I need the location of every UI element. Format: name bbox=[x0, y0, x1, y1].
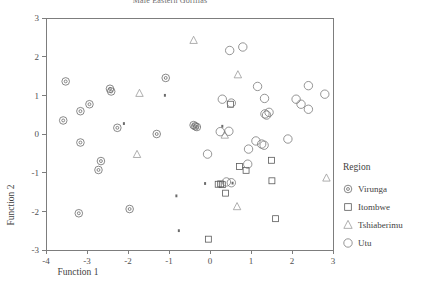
legend-entry-label-itombwe: Itombwe bbox=[358, 202, 390, 212]
legend-entry-label-virunga: Virunga bbox=[358, 184, 387, 194]
data-point bbox=[62, 78, 70, 86]
data-point bbox=[203, 150, 211, 158]
scatter-plot: -4-3-2-10123-3-2-10123Function 1Function… bbox=[0, 0, 425, 284]
data-point bbox=[273, 216, 279, 222]
data-point bbox=[86, 100, 94, 108]
x-tick-label: 1 bbox=[249, 256, 254, 266]
data-point bbox=[190, 36, 197, 43]
legend-marker-virunga-inner bbox=[347, 188, 350, 191]
legend-entry-utu[interactable]: Utu bbox=[344, 238, 372, 248]
legend-entry-label-utu: Utu bbox=[358, 238, 372, 248]
data-point bbox=[215, 181, 221, 187]
series-itombwe bbox=[205, 101, 278, 242]
data-point bbox=[126, 205, 134, 213]
data-point bbox=[77, 139, 85, 147]
x-tick-label: -1 bbox=[165, 256, 173, 266]
x-tick-label: 0 bbox=[208, 256, 213, 266]
data-point bbox=[239, 43, 247, 51]
x-axis-title: Function 1 bbox=[58, 267, 99, 277]
figure-container: Male Eastern Gorillas -4-3-2-10123-3-2-1… bbox=[0, 0, 425, 284]
data-point bbox=[77, 107, 85, 115]
data-point-inner bbox=[116, 126, 119, 129]
data-point bbox=[204, 182, 206, 185]
data-point bbox=[269, 178, 275, 184]
y-tick-label: 0 bbox=[35, 129, 40, 139]
data-point bbox=[227, 179, 235, 187]
data-point bbox=[237, 164, 243, 170]
data-point bbox=[233, 203, 240, 210]
data-point bbox=[97, 157, 105, 165]
data-point bbox=[260, 141, 268, 149]
legend-title: Region bbox=[343, 162, 371, 172]
data-point bbox=[136, 89, 143, 96]
data-point bbox=[260, 94, 268, 102]
x-tick-label: 3 bbox=[331, 256, 336, 266]
data-point bbox=[225, 127, 233, 135]
legend-marker-tshiaberimu bbox=[344, 220, 352, 228]
data-point bbox=[123, 122, 125, 125]
legend-marker-virunga bbox=[344, 185, 352, 193]
data-point bbox=[218, 95, 226, 103]
data-point bbox=[297, 100, 305, 108]
data-point bbox=[234, 71, 241, 78]
x-tick-label: -4 bbox=[42, 256, 50, 266]
x-tick-label: -2 bbox=[124, 256, 132, 266]
data-point-inner bbox=[97, 169, 100, 172]
data-point-inner bbox=[77, 212, 80, 215]
legend-entry-tshiaberimu[interactable]: Tshiaberimu bbox=[344, 220, 404, 230]
data-point bbox=[232, 182, 234, 185]
data-point-inner bbox=[79, 141, 82, 144]
data-point bbox=[133, 150, 140, 157]
data-point bbox=[95, 166, 103, 174]
data-point-inner bbox=[155, 133, 158, 136]
series-virunga bbox=[59, 74, 200, 217]
data-point bbox=[59, 117, 67, 125]
data-point bbox=[323, 174, 330, 181]
axis-layer: -4-3-2-10123-3-2-10123Function 1Function… bbox=[6, 13, 336, 277]
data-point bbox=[216, 127, 224, 135]
data-point bbox=[75, 209, 83, 217]
legend-entry-label-tshiaberimu: Tshiaberimu bbox=[358, 220, 403, 230]
legend-entry-virunga[interactable]: Virunga bbox=[344, 184, 387, 194]
data-point bbox=[164, 94, 166, 97]
data-point bbox=[175, 194, 177, 197]
data-point bbox=[304, 81, 312, 89]
data-point bbox=[284, 135, 292, 143]
data-point-inner bbox=[164, 76, 167, 79]
data-point-inner bbox=[99, 160, 102, 163]
data-point bbox=[227, 99, 235, 107]
data-point bbox=[321, 90, 329, 98]
y-tick-label: 2 bbox=[35, 52, 40, 62]
data-point bbox=[205, 236, 211, 242]
y-tick-label: 1 bbox=[35, 91, 40, 101]
data-point bbox=[114, 124, 122, 132]
y-tick-label: -3 bbox=[32, 245, 40, 255]
y-tick-label: -2 bbox=[32, 207, 40, 217]
data-points-layer bbox=[59, 36, 330, 242]
data-point bbox=[221, 125, 223, 128]
data-point bbox=[178, 229, 180, 232]
data-point bbox=[269, 157, 275, 163]
data-point bbox=[225, 46, 233, 54]
series-unclassified bbox=[123, 94, 234, 232]
data-point bbox=[292, 95, 300, 103]
x-tick-label: 2 bbox=[290, 256, 295, 266]
y-tick-label: 3 bbox=[35, 13, 40, 23]
series-utu bbox=[203, 43, 329, 187]
data-point-inner bbox=[128, 208, 131, 211]
legend-marker-itombwe bbox=[345, 204, 352, 211]
data-point-inner bbox=[64, 80, 67, 83]
legend-marker-utu bbox=[344, 239, 352, 247]
y-axis-title: Function 2 bbox=[6, 184, 16, 225]
data-point-inner bbox=[79, 110, 82, 113]
data-point-inner bbox=[62, 119, 65, 122]
data-point bbox=[253, 82, 261, 90]
legend-entry-itombwe[interactable]: Itombwe bbox=[345, 202, 390, 212]
data-point bbox=[162, 74, 170, 82]
data-point-inner bbox=[88, 103, 91, 106]
data-point bbox=[153, 130, 161, 138]
data-point bbox=[223, 190, 229, 196]
data-point bbox=[304, 105, 312, 113]
legend-layer: RegionVirungaItombweTshiaberimuUtu bbox=[343, 162, 403, 248]
y-tick-label: -1 bbox=[32, 168, 40, 178]
